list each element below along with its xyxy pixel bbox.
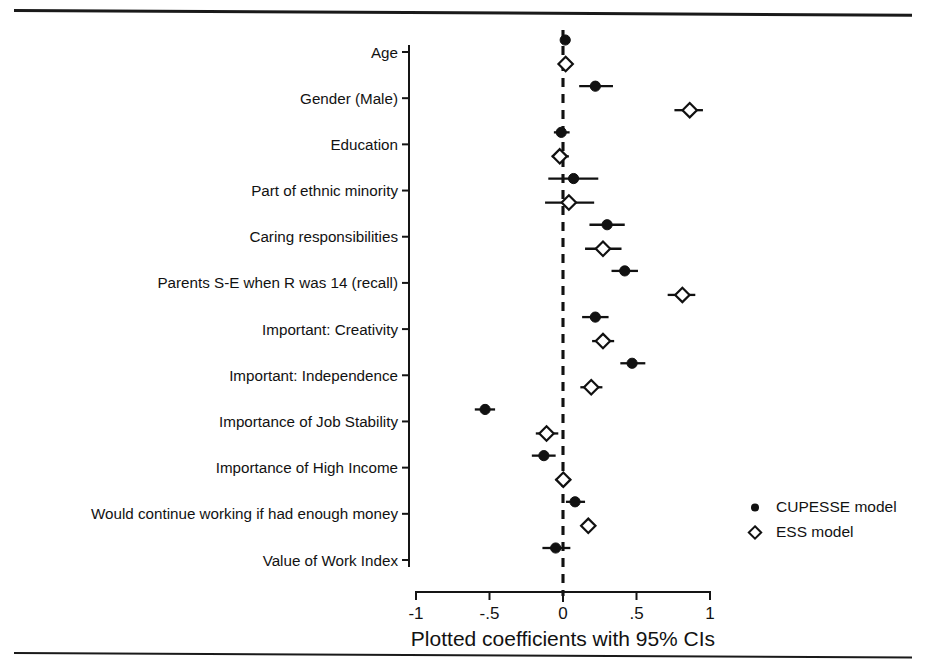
point-marker-cupesse — [556, 127, 566, 137]
point-marker-cupesse — [620, 266, 630, 276]
x-tick-label: 0 — [558, 604, 567, 623]
category-label: Value of Work Index — [263, 552, 399, 569]
category-label: Importance of Job Stability — [219, 413, 398, 430]
point-marker-cupesse — [590, 312, 600, 322]
legend-marker-ess — [749, 526, 761, 538]
figure-page: AgeGender (Male)EducationPart of ethnic … — [0, 0, 926, 672]
x-axis-title-text: Plotted coefficients with 95% CIs — [411, 627, 715, 650]
chart-legend: CUPESSE modelESS model — [749, 498, 897, 540]
point-marker-ess — [539, 426, 553, 440]
point-marker-cupesse — [551, 543, 561, 553]
x-axis — [416, 592, 710, 602]
category-label: Education — [330, 136, 398, 153]
point-marker-cupesse — [539, 451, 549, 461]
point-marker-ess — [553, 149, 567, 163]
x-tick-label: .5 — [629, 604, 643, 623]
point-marker-cupesse — [590, 81, 600, 91]
point-marker-ess — [556, 472, 570, 486]
legend-marker-cupesse — [751, 504, 759, 512]
plot-data — [475, 35, 703, 553]
category-label: Caring responsibilities — [249, 228, 398, 245]
legend-label: ESS model — [776, 523, 854, 540]
y-axis — [402, 46, 409, 566]
point-marker-ess — [596, 242, 610, 256]
category-label: Important: Creativity — [262, 321, 398, 338]
x-tick-label: 1 — [705, 604, 714, 623]
point-marker-ess — [558, 57, 572, 71]
point-marker-ess — [584, 380, 598, 394]
category-label: Important: Independence — [229, 367, 398, 384]
point-marker-cupesse — [627, 358, 637, 368]
x-tick-label: -.5 — [480, 604, 500, 623]
category-label: Part of ethnic minority — [251, 182, 398, 199]
point-marker-cupesse — [480, 404, 490, 414]
point-marker-ess — [675, 288, 689, 302]
category-axis-labels: AgeGender (Male)EducationPart of ethnic … — [91, 44, 398, 569]
point-marker-cupesse — [602, 220, 612, 230]
coefficient-plot: AgeGender (Male)EducationPart of ethnic … — [0, 0, 926, 672]
category-label: Age — [371, 44, 398, 61]
point-marker-ess — [581, 519, 595, 533]
category-label: Would continue working if had enough mon… — [91, 505, 398, 522]
legend-label: CUPESSE model — [776, 498, 897, 515]
point-marker-cupesse — [570, 497, 580, 507]
x-axis-tick-labels: -1-.50.51 — [408, 604, 714, 623]
category-label: Importance of High Income — [216, 459, 398, 476]
x-axis-title: Plotted coefficients with 95% CIs — [411, 627, 715, 650]
point-marker-cupesse — [560, 35, 570, 45]
x-tick-label: -1 — [408, 604, 423, 623]
point-marker-cupesse — [568, 173, 578, 183]
point-marker-ess — [596, 334, 610, 348]
point-marker-ess — [683, 103, 697, 117]
category-label: Gender (Male) — [300, 90, 398, 107]
category-label: Parents S-E when R was 14 (recall) — [157, 274, 398, 291]
